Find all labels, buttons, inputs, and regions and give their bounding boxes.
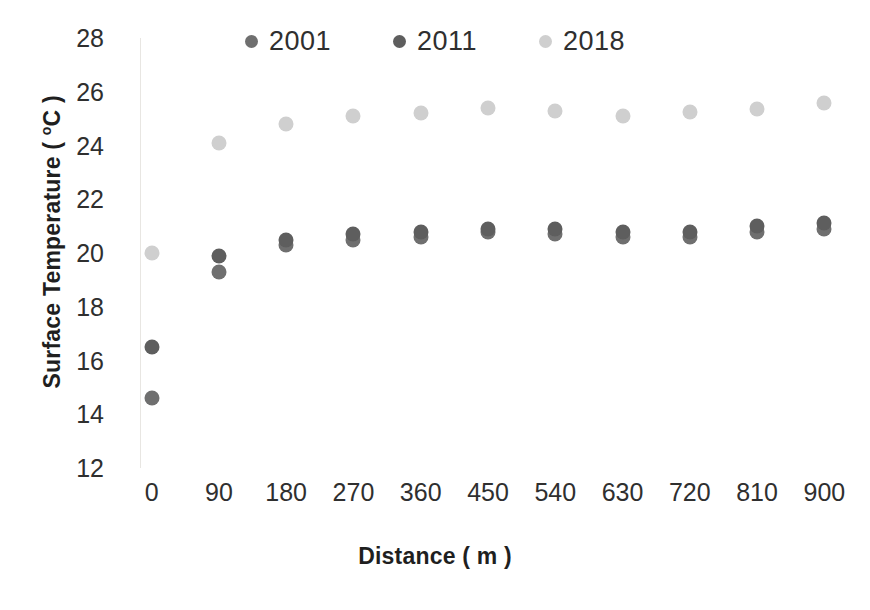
x-axis-tick-630: 630 [602, 478, 644, 507]
data-point-2011-540 [548, 221, 563, 236]
data-point-2011-450 [481, 221, 496, 236]
x-axis-tick-720: 720 [669, 478, 711, 507]
x-axis-tick-0: 0 [145, 478, 159, 507]
x-axis-tick-900: 900 [804, 478, 846, 507]
data-point-2011-360 [413, 224, 428, 239]
x-axis-tick-810: 810 [736, 478, 778, 507]
x-axis-tick-450: 450 [467, 478, 509, 507]
data-point-2011-180 [279, 232, 294, 247]
data-point-2018-360 [413, 106, 428, 121]
y-axis-tick-22: 22 [76, 185, 104, 214]
data-point-2018-900 [817, 95, 832, 110]
data-point-2018-270 [346, 108, 361, 123]
y-axis-tick-24: 24 [76, 131, 104, 160]
data-point-2001-90 [211, 264, 226, 279]
plot-area: 121416182022242628 090180270360450540630… [118, 38, 858, 468]
data-point-2011-900 [817, 216, 832, 231]
scatter-chart: 2001 2011 2018 Surface Temperature ( oC … [0, 0, 870, 610]
data-point-2011-0 [144, 340, 159, 355]
y-axis-line [140, 38, 141, 468]
data-point-2018-90 [211, 135, 226, 150]
x-axis-title: Distance ( m ) [0, 543, 870, 570]
x-axis-tick-270: 270 [333, 478, 375, 507]
y-axis-title-tail: C ) [39, 95, 65, 126]
y-axis-title-main: Surface Temperature ( [39, 135, 65, 388]
y-axis-tick-12: 12 [76, 454, 104, 483]
data-point-2011-810 [750, 219, 765, 234]
data-point-2001-0 [144, 391, 159, 406]
y-axis-tick-20: 20 [76, 239, 104, 268]
x-axis-tick-540: 540 [534, 478, 576, 507]
data-point-2011-720 [682, 224, 697, 239]
y-axis-tick-14: 14 [76, 400, 104, 429]
y-axis-tick-26: 26 [76, 77, 104, 106]
x-axis-tick-180: 180 [265, 478, 307, 507]
data-point-2018-630 [615, 108, 630, 123]
data-point-2018-720 [682, 104, 697, 119]
x-axis-tick-360: 360 [400, 478, 442, 507]
data-point-2011-630 [615, 224, 630, 239]
y-axis-title: Surface Temperature ( oC ) [38, 42, 66, 442]
y-axis-tick-18: 18 [76, 292, 104, 321]
y-axis-degree-symbol: o [38, 126, 54, 135]
y-axis-tick-16: 16 [76, 346, 104, 375]
data-point-2011-90 [211, 248, 226, 263]
data-point-2018-450 [481, 100, 496, 115]
data-point-2018-540 [548, 103, 563, 118]
data-point-2018-810 [750, 102, 765, 117]
data-point-2018-0 [144, 246, 159, 261]
data-point-2011-270 [346, 227, 361, 242]
x-axis-tick-90: 90 [205, 478, 233, 507]
data-point-2018-180 [279, 117, 294, 132]
y-axis-tick-28: 28 [76, 24, 104, 53]
